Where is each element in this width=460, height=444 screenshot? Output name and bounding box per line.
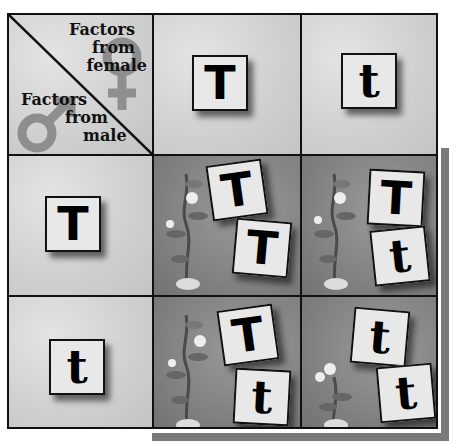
female-label-line: female [45, 57, 147, 75]
allele-tile: t [369, 225, 431, 287]
allele-letter: T [229, 310, 266, 360]
tall-plant-icon [160, 305, 220, 427]
male-label-line: male [21, 127, 131, 145]
offspring-cell-TT: T T [154, 156, 300, 295]
allele-letter: t [393, 369, 418, 417]
short-plant-icon [310, 357, 360, 427]
row-header-male-T: T [9, 156, 152, 295]
tall-plant-icon [308, 164, 368, 292]
allele-letter: T [204, 60, 235, 106]
allele-tile: T [216, 303, 279, 366]
allele-letter: t [367, 313, 392, 361]
drop-shadow-right [441, 148, 449, 441]
allele-letter: T [244, 224, 279, 273]
column-header-female-T: T [154, 15, 300, 154]
male-label-line: Factors [21, 91, 131, 109]
offspring-cell-Tt-2: T t [154, 297, 300, 427]
male-label-line: from [21, 109, 131, 127]
female-label-line: Factors [45, 21, 135, 39]
allele-tile: T [205, 158, 268, 221]
allele-tile: t [376, 363, 436, 424]
offspring-cell-tt: t t [302, 297, 436, 427]
allele-letter: t [387, 232, 413, 280]
allele-letter: T [379, 174, 413, 222]
allele-letter: t [66, 344, 87, 390]
allele-tile: T [192, 55, 248, 111]
female-label: Factors from female [45, 21, 135, 75]
corner-cell: Factors from female Factors from male [9, 15, 152, 154]
drop-shadow-bottom [152, 433, 449, 441]
female-label-line: from [45, 39, 135, 57]
punnett-square: Factors from female Factors from male T … [7, 13, 438, 429]
allele-letter: T [57, 201, 88, 247]
column-header-female-t: t [302, 15, 436, 154]
allele-tile: T [367, 169, 426, 228]
allele-tile: T [232, 218, 293, 279]
allele-letter: T [218, 165, 255, 215]
allele-tile: t [341, 53, 397, 109]
allele-tile: t [233, 368, 292, 427]
offspring-cell-Tt: T t [302, 156, 436, 295]
male-label: Factors from male [21, 91, 131, 145]
allele-tile: t [49, 339, 105, 395]
allele-tile: t [350, 307, 411, 368]
allele-tile: T [45, 196, 101, 252]
allele-letter: t [250, 373, 274, 420]
allele-letter: t [358, 58, 379, 104]
row-header-male-t: t [9, 297, 152, 427]
